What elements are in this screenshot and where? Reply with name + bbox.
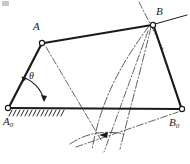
kinematic-diagram-figure: A B A0 B0 θ bbox=[0, 0, 190, 164]
crank-link-A0-A bbox=[9, 45, 41, 107]
label-ground-pivot-B0: B0 bbox=[169, 117, 179, 128]
construction-arcs-group bbox=[70, 26, 151, 150]
construction-ray-from-B-downleft bbox=[104, 31, 148, 152]
label-B0-subscript: 0 bbox=[176, 122, 180, 130]
angle-arrowhead-end bbox=[41, 95, 47, 102]
joint-B[interactable] bbox=[150, 22, 155, 27]
construction-arc-left bbox=[92, 26, 149, 150]
construction-ray-to-B0 bbox=[76, 112, 178, 147]
frame-link-group bbox=[8, 108, 182, 109]
joint-B0[interactable] bbox=[179, 106, 184, 111]
rocker-link-B-B0 bbox=[154, 27, 181, 107]
frame-link-A0-B0 bbox=[8, 108, 182, 109]
ground-hatching bbox=[9, 110, 64, 116]
main-links-group bbox=[9, 25, 181, 107]
angle-theta-arrowheads bbox=[22, 77, 47, 102]
label-A0-base: A bbox=[3, 115, 10, 127]
coupler-link-A-B bbox=[44, 25, 152, 43]
label-point-A: A bbox=[33, 21, 40, 32]
label-angle-theta: θ bbox=[29, 71, 34, 81]
construction-arc-lower bbox=[70, 132, 124, 144]
label-ground-pivot-A0: A0 bbox=[3, 116, 13, 127]
construction-ray-from-A bbox=[46, 47, 101, 140]
construction-lines-group bbox=[46, 2, 178, 152]
label-A0-subscript: 0 bbox=[10, 121, 14, 129]
joint-A0[interactable] bbox=[5, 105, 10, 110]
label-B0-base: B bbox=[169, 116, 176, 128]
joint-A[interactable] bbox=[39, 40, 44, 45]
linkage-drawing-canvas bbox=[0, 0, 190, 164]
label-point-B: B bbox=[156, 6, 163, 17]
